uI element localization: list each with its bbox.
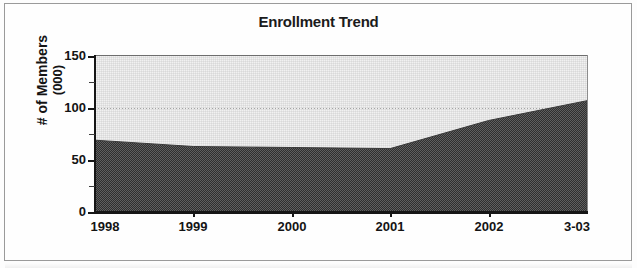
y-tick-minor-25 bbox=[89, 186, 95, 187]
x-tick-label-2000: 2000 bbox=[257, 219, 327, 234]
x-tick-label-1998: 1998 bbox=[70, 219, 140, 234]
x-tick-2000 bbox=[292, 211, 294, 217]
x-tick-1999 bbox=[193, 211, 195, 217]
plot-border-right bbox=[587, 55, 588, 213]
y-tick-label-0: 0 bbox=[50, 204, 86, 219]
scan-shadow bbox=[5, 263, 632, 268]
area-series-polygon bbox=[95, 101, 587, 212]
y-tick-label-100: 100 bbox=[50, 100, 86, 115]
y-tick-minor-125 bbox=[89, 82, 95, 83]
x-tick-label-3-03: 3-03 bbox=[542, 219, 612, 234]
plot-border-top bbox=[95, 55, 588, 56]
x-axis-line bbox=[94, 211, 588, 214]
x-tick-2002 bbox=[489, 211, 491, 217]
x-tick-2001 bbox=[390, 211, 392, 217]
y-tick-label-150: 150 bbox=[50, 48, 86, 63]
y-tick-minor-75 bbox=[89, 134, 95, 135]
x-tick-label-2002: 2002 bbox=[454, 219, 524, 234]
y-tick-label-50: 50 bbox=[50, 152, 86, 167]
y-tick-major-100 bbox=[88, 108, 95, 110]
y-tick-major-0 bbox=[88, 212, 95, 214]
y-tick-major-50 bbox=[88, 160, 95, 162]
y-tick-major-150 bbox=[88, 56, 95, 58]
area-series-svg bbox=[95, 56, 587, 212]
x-tick-label-2001: 2001 bbox=[355, 219, 425, 234]
plot-area bbox=[95, 56, 587, 212]
chart-title: Enrollment Trend bbox=[0, 13, 637, 30]
x-tick-label-1999: 1999 bbox=[158, 219, 228, 234]
chart-screenshot: Enrollment Trend # of Members (000) 0501… bbox=[0, 0, 637, 268]
